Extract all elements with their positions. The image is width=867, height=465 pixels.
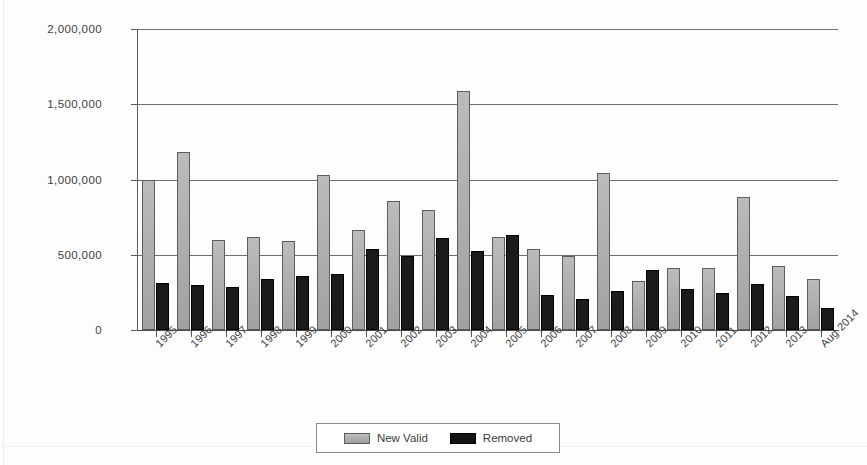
bar-group: [667, 29, 694, 330]
bar-new-valid: [282, 241, 295, 330]
bar-removed: [471, 251, 484, 330]
bar-removed: [716, 293, 729, 330]
bar-group: [737, 29, 764, 330]
bar-removed: [156, 283, 169, 330]
bar-new-valid: [317, 175, 330, 330]
plot-area: [138, 29, 838, 330]
bar-group: [807, 29, 834, 330]
bar-group: [142, 29, 169, 330]
bar-removed: [786, 296, 799, 330]
bar-new-valid: [807, 279, 820, 330]
y-axis-tick-label: 1,500,000: [47, 98, 102, 110]
bar-group: [457, 29, 484, 330]
bar-removed: [296, 276, 309, 330]
bar-removed: [506, 235, 519, 330]
bar-removed: [401, 256, 414, 330]
bar-group: [177, 29, 204, 330]
bar-new-valid: [142, 180, 155, 331]
bars-layer: [138, 29, 838, 330]
bar-new-valid: [737, 197, 750, 330]
bar-new-valid: [247, 237, 260, 330]
bar-removed: [366, 249, 379, 330]
y-axis-labels: 2,000,0001,500,0001,000,000500,0000: [0, 0, 138, 465]
bar-group: [387, 29, 414, 330]
y-axis-tick-label: 2,000,000: [47, 23, 102, 35]
bar-removed: [331, 274, 344, 330]
bar-removed: [541, 295, 554, 330]
bar-group: [632, 29, 659, 330]
legend-swatch-removed: [450, 433, 476, 444]
legend-swatch-new-valid: [344, 433, 370, 444]
bar-removed: [436, 238, 449, 330]
bar-new-valid: [387, 201, 400, 330]
bar-group: [282, 29, 309, 330]
bar-new-valid: [772, 266, 785, 330]
bar-removed: [226, 287, 239, 330]
legend-label-removed: Removed: [483, 432, 532, 444]
bar-group: [492, 29, 519, 330]
bar-new-valid: [177, 152, 190, 330]
bar-group: [527, 29, 554, 330]
bar-group: [352, 29, 379, 330]
bar-new-valid: [527, 249, 540, 330]
bar-new-valid: [212, 240, 225, 330]
bar-removed: [611, 291, 624, 330]
legend-item-removed: Removed: [450, 432, 532, 444]
legend-label-new-valid: New Valid: [377, 432, 428, 444]
bar-group: [562, 29, 589, 330]
bar-chart-figure: 2,000,0001,500,0001,000,000500,0000 1995…: [0, 0, 867, 465]
bar-new-valid: [667, 268, 680, 330]
y-axis-tick-label: 0: [95, 324, 102, 336]
bar-new-valid: [562, 256, 575, 330]
bar-new-valid: [702, 268, 715, 330]
bar-new-valid: [422, 210, 435, 330]
legend-item-new-valid: New Valid: [344, 432, 428, 444]
bar-group: [702, 29, 729, 330]
y-axis-tick-label: 1,000,000: [47, 174, 102, 186]
bar-removed: [261, 279, 274, 330]
bar-removed: [646, 270, 659, 330]
bar-removed: [191, 285, 204, 330]
chart-legend: New Valid Removed: [316, 423, 560, 453]
bar-removed: [751, 284, 764, 330]
bar-group: [212, 29, 239, 330]
bar-group: [772, 29, 799, 330]
bar-group: [317, 29, 344, 330]
bar-new-valid: [492, 237, 505, 330]
bar-group: [422, 29, 449, 330]
y-axis-tick-label: 500,000: [58, 249, 102, 261]
bar-new-valid: [352, 230, 365, 330]
bar-new-valid: [457, 91, 470, 330]
bar-group: [247, 29, 274, 330]
bar-removed: [681, 289, 694, 330]
bar-group: [597, 29, 624, 330]
bar-new-valid: [597, 173, 610, 330]
bar-new-valid: [632, 281, 645, 330]
